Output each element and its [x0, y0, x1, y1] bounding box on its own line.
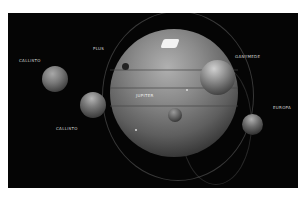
space-scene: CALLISTO PLUS GANYMEDE EUROPA CALLISTO J… [8, 13, 298, 188]
moon-label: EUROPA [273, 105, 291, 110]
moon-label: CALLISTO [19, 58, 41, 63]
specular-highlight [160, 39, 179, 48]
moon-right-large [200, 60, 235, 95]
moon-left-upper [42, 66, 68, 92]
moon-tiny [122, 63, 129, 70]
moon-label: GANYMEDE [235, 54, 260, 59]
planet-label: JUPITER [136, 93, 154, 98]
surface-marker [186, 89, 188, 91]
surface-marker [135, 129, 137, 131]
moon-label: PLUS [93, 46, 104, 51]
cloud-band [110, 105, 238, 107]
moon-center-small [168, 108, 182, 122]
moon-left-lower [80, 92, 106, 118]
moon-right-lower [242, 114, 263, 135]
moon-label: CALLISTO [56, 126, 78, 131]
